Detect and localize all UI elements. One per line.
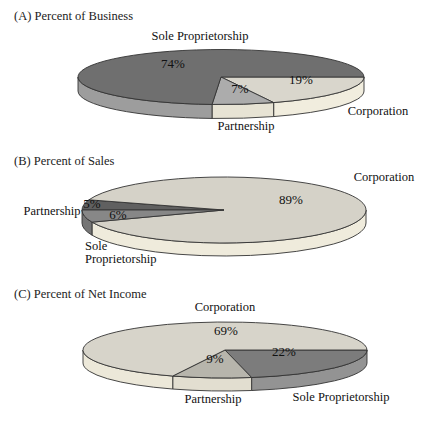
- slice-percent-label-partnership: 9%: [206, 351, 224, 366]
- slice-name-label-partnership: Partnership: [185, 392, 242, 406]
- pie-chart-c: 22%9%69%Sole ProprietorshipPartnershipCo…: [83, 300, 389, 406]
- slice-name-label-sole-proprietorship: Sole: [85, 239, 108, 253]
- slice-percent-label-sole-proprietorship: 6%: [109, 207, 127, 222]
- pie-side-partnership: [212, 103, 274, 119]
- slice-name-label-sole-proprietorship: Sole Proprietorship: [293, 390, 390, 404]
- figure-canvas: 19%7%74%CorporationPartnershipSole Propr…: [0, 0, 421, 428]
- slice-name-label-partnership: Partnership: [218, 119, 275, 133]
- slice-percent-label-partnership: 7%: [231, 81, 249, 96]
- pie-chart-a: 19%7%74%CorporationPartnershipSole Propr…: [78, 29, 409, 133]
- slice-name-label-corporation: Corporation: [195, 300, 256, 314]
- slice-percent-label-corporation: 19%: [289, 72, 313, 87]
- pie-chart-b: 5%89%6%PartnershipCorporationSoleProprie…: [24, 170, 415, 266]
- slice-name-label-sole-proprietorship: Sole Proprietorship: [152, 29, 249, 43]
- slice-percent-label-corporation: 69%: [214, 323, 238, 338]
- slice-percent-label-sole-proprietorship: 74%: [161, 56, 185, 71]
- pie-charts-svg: 19%7%74%CorporationPartnershipSole Propr…: [0, 0, 421, 428]
- slice-percent-label-corporation: 89%: [279, 192, 303, 207]
- slice-name-label-corporation: Corporation: [348, 104, 409, 118]
- slice-name-label-partnership: Partnership: [24, 204, 81, 218]
- slice-name-label-sole-proprietorship: Proprietorship: [85, 252, 157, 266]
- chart-title-a: (A) Percent of Business: [14, 9, 133, 24]
- slice-percent-label-sole-proprietorship: 22%: [272, 344, 296, 359]
- chart-title-c: (C) Percent of Net Income: [14, 287, 147, 302]
- chart-title-b: (B) Percent of Sales: [14, 154, 114, 169]
- slice-name-label-corporation: Corporation: [354, 170, 415, 184]
- slice-percent-label-partnership: 5%: [83, 196, 101, 211]
